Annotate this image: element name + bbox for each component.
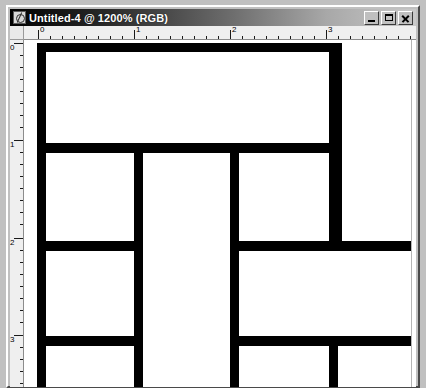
ruler-tick-minor	[182, 36, 183, 39]
ruler-tick-minor	[20, 55, 23, 56]
ruler-tick-minor	[20, 67, 23, 68]
ruler-tick-minor	[20, 224, 23, 225]
middle-left-vertical-bar	[134, 143, 143, 387]
ruler-tick-minor	[314, 36, 315, 39]
second-horizontal-divider-left	[37, 241, 143, 251]
ruler-tick-major	[134, 30, 135, 39]
ruler-tick-minor	[194, 36, 195, 39]
ruler-tick-minor	[20, 127, 23, 128]
ruler-tick-minor	[74, 36, 75, 39]
ruler-tick-minor	[410, 36, 411, 39]
window-controls	[364, 11, 414, 25]
ruler-tick-minor	[206, 36, 207, 39]
ruler-tick-major	[14, 140, 23, 141]
ruler-label: 0	[40, 26, 44, 34]
ruler-tick-minor	[20, 359, 23, 360]
ruler-tick-major	[230, 30, 231, 39]
image-window: Untitled-4 @ 1200% (RGB) 0123 0123	[6, 5, 420, 388]
ruler-tick-major	[14, 238, 23, 239]
minimize-button[interactable]	[364, 11, 379, 25]
ruler-tick-minor	[254, 36, 255, 39]
ruler-tick-minor	[20, 212, 23, 213]
ruler-label: 1	[10, 141, 14, 149]
ruler-tick-minor	[98, 36, 99, 39]
ruler-tick-minor	[86, 36, 87, 39]
maximize-button[interactable]	[381, 11, 396, 25]
ruler-label: 2	[10, 239, 14, 247]
window-title: Untitled-4 @ 1200% (RGB)	[29, 12, 168, 24]
ruler-tick-minor	[20, 383, 23, 384]
screenshot-root: Untitled-4 @ 1200% (RGB) 0123 0123	[0, 0, 426, 388]
ruler-tick-minor	[20, 91, 23, 92]
ruler-tick-minor	[20, 103, 23, 104]
ruler-tick-minor	[20, 115, 23, 116]
ruler-tick-minor	[218, 36, 219, 39]
ruler-label: 1	[136, 26, 140, 34]
ruler-tick-minor	[290, 36, 291, 39]
third-horizontal-divider-right	[230, 336, 416, 346]
artboard[interactable]	[24, 40, 416, 387]
ruler-tick-minor	[20, 262, 23, 263]
third-horizontal-divider-left	[37, 336, 143, 346]
ruler-tick-minor	[338, 36, 339, 39]
ruler-tick-minor	[398, 36, 399, 39]
vertical-scrollbar[interactable]	[411, 40, 416, 387]
ruler-tick-minor	[20, 274, 23, 275]
photoshop-document-icon	[13, 11, 26, 24]
ruler-tick-minor	[20, 200, 23, 201]
ruler-tick-minor	[266, 36, 267, 39]
ruler-tick-minor	[20, 152, 23, 153]
horizontal-ruler[interactable]: 0123	[24, 26, 416, 40]
ruler-tick-minor	[302, 36, 303, 39]
ruler-tick-minor	[62, 36, 63, 39]
ruler-tick-major	[14, 43, 23, 44]
ruler-tick-minor	[20, 164, 23, 165]
middle-right-vertical-bar	[230, 143, 239, 387]
ruler-tick-major	[38, 30, 39, 39]
ruler-tick-minor	[242, 36, 243, 39]
ruler-tick-minor	[350, 36, 351, 39]
ruler-tick-minor	[122, 36, 123, 39]
ruler-tick-minor	[386, 36, 387, 39]
ruler-tick-minor	[20, 347, 23, 348]
ruler-tick-minor	[20, 298, 23, 299]
ruler-tick-minor	[20, 176, 23, 177]
ruler-tick-minor	[20, 250, 23, 251]
ruler-tick-minor	[278, 36, 279, 39]
second-horizontal-divider-right	[230, 241, 416, 251]
ruler-tick-minor	[20, 188, 23, 189]
ruler-tick-minor	[110, 36, 111, 39]
ruler-tick-minor	[362, 36, 363, 39]
ruler-tick-minor	[20, 310, 23, 311]
ruler-tick-major	[326, 30, 327, 39]
ruler-label: 3	[10, 336, 14, 344]
ruler-tick-minor	[20, 322, 23, 323]
ruler-tick-minor	[158, 36, 159, 39]
first-horizontal-divider	[37, 143, 342, 153]
close-button[interactable]	[398, 11, 413, 25]
ruler-tick-major	[14, 335, 23, 336]
ruler-tick-minor	[374, 36, 375, 39]
ruler-tick-minor	[20, 371, 23, 372]
bottom-right-vertical-stub	[329, 346, 338, 387]
vertical-ruler[interactable]: 0123	[10, 40, 24, 387]
ruler-label: 3	[328, 26, 332, 34]
ruler-tick-minor	[50, 36, 51, 39]
ruler-label: 2	[232, 26, 236, 34]
ruler-label: 0	[10, 44, 14, 52]
ruler-corner[interactable]	[10, 26, 24, 40]
window-titlebar[interactable]: Untitled-4 @ 1200% (RGB)	[10, 9, 416, 26]
ruler-tick-minor	[146, 36, 147, 39]
ruler-tick-minor	[20, 286, 23, 287]
top-horizontal-bar	[37, 43, 342, 52]
ruler-tick-minor	[170, 36, 171, 39]
canvas-viewport[interactable]	[24, 40, 416, 387]
ruler-tick-minor	[20, 79, 23, 80]
